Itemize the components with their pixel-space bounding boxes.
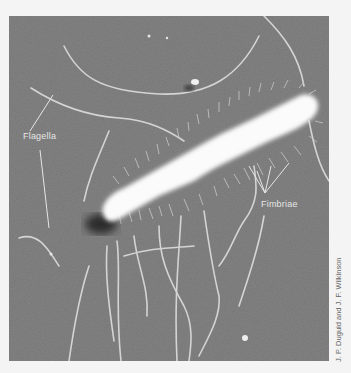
fimbriae-label: Fimbriae <box>261 199 298 209</box>
micrograph-drawing <box>9 16 329 361</box>
flagella-label: Flagella <box>23 131 56 141</box>
photo-credit: J. P. Duguid and J. F. Wilkinson <box>334 258 343 363</box>
micrograph-photo: Flagella Fimbriae <box>9 16 329 361</box>
